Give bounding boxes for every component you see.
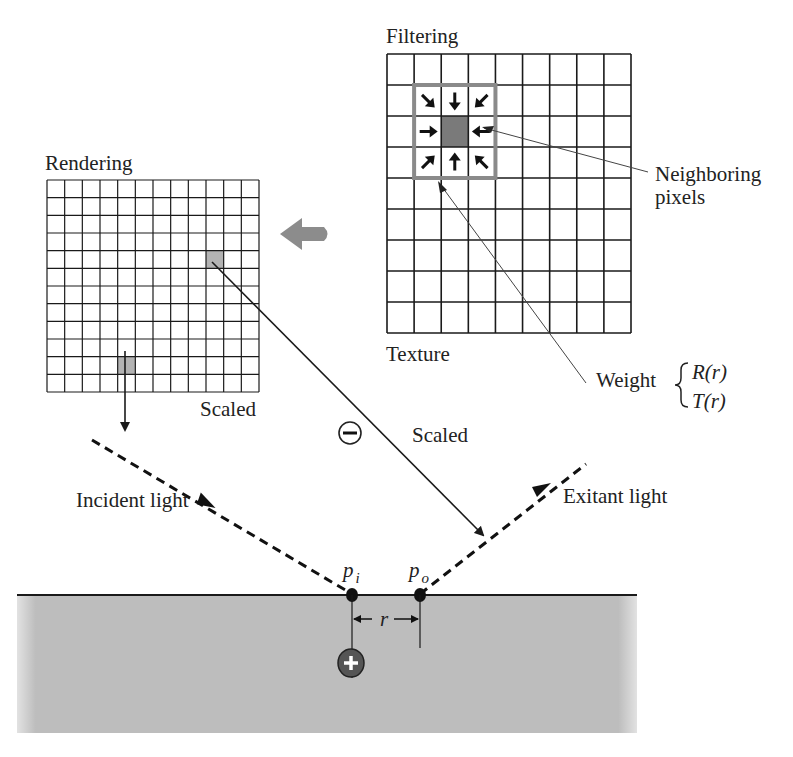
neighboring-label-line1: Neighboring: [655, 162, 762, 186]
rendering-grid: [47, 180, 259, 392]
weight-brace: [675, 363, 688, 407]
p-o-label: po: [407, 558, 430, 586]
rendering-label: Rendering: [45, 151, 133, 175]
distance-r-label: r: [380, 607, 389, 631]
filtering-label: Filtering: [386, 24, 459, 48]
incident-light-ray: [92, 440, 352, 594]
exitant-light-ray: [420, 464, 586, 594]
texture-label: Texture: [386, 342, 450, 366]
p-i-label: pi: [341, 558, 360, 586]
kernel-arrow-icon: [472, 126, 480, 138]
subsurface-filtering-diagram: Rendering Scaled Filtering Texture Neigh…: [0, 0, 793, 757]
highlighted-pixel: [118, 357, 136, 375]
exitant-light-label: Exitant light: [563, 484, 668, 508]
weight-transmittance: T(r): [692, 389, 726, 413]
center-pixel: [441, 116, 468, 147]
kernel-arrow-icon: [449, 103, 461, 111]
kernel-arrow-icon: [449, 153, 461, 161]
texture-grid: [387, 54, 631, 333]
incident-light-label: Incident light: [76, 488, 189, 512]
weight-pointer: [438, 181, 586, 383]
kernel-arrow-icon: [430, 126, 438, 138]
neighboring-pointer: [482, 126, 648, 172]
material-surface: [17, 595, 637, 733]
minus-circle-icon: [339, 422, 361, 444]
plus-circle-icon: [338, 649, 364, 677]
scaled-line-label: Scaled: [412, 423, 468, 447]
neighboring-label-line2: pixels: [655, 185, 705, 209]
weight-reflectance: R(r): [691, 360, 727, 384]
big-left-arrow-icon: [280, 218, 328, 250]
weight-label: Weight: [596, 368, 656, 392]
rendering-scaled-label: Scaled: [200, 397, 256, 421]
